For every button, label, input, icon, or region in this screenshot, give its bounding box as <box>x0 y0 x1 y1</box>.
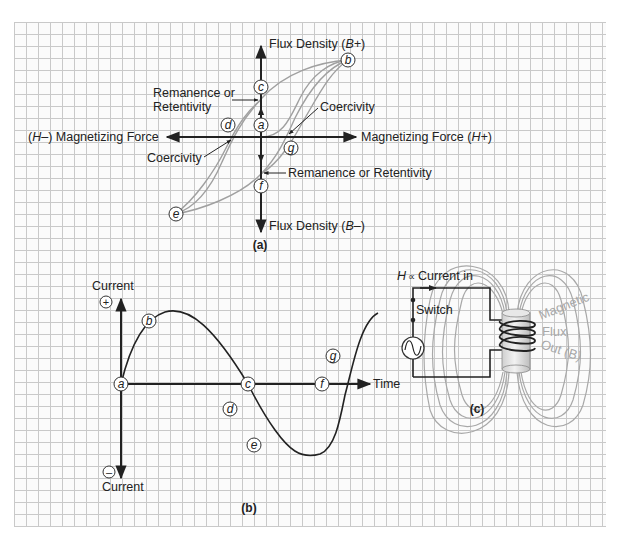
figure-canvas: Flux Density (B+) Flux Density (B–) (H–)… <box>0 0 621 541</box>
panel-b-caption: (b) <box>241 501 256 515</box>
current-positive-axis-label: Current <box>92 279 134 293</box>
minus-sign-icon: – <box>103 466 115 478</box>
svg-text:b: b <box>345 53 352 67</box>
flux-density-b-minus-label: Flux Density (B–) <box>269 219 365 233</box>
remanence-top-label-line2: Retentivity <box>153 100 212 114</box>
svg-text:b: b <box>146 314 153 328</box>
wave-point-d: d <box>223 402 237 416</box>
switch-contact-top <box>411 298 416 303</box>
flux-density-b-plus-label: Flux Density (B+) <box>269 37 365 51</box>
plus-sign-icon: + <box>100 296 112 308</box>
svg-text:e: e <box>251 438 258 452</box>
svg-text:d: d <box>227 402 234 416</box>
svg-text:d: d <box>225 118 232 132</box>
point-a: a <box>254 118 268 132</box>
svg-text:a: a <box>118 377 125 391</box>
coercivity-right-label: Coercivity <box>320 100 376 114</box>
svg-text:g: g <box>288 141 295 155</box>
panel-a-caption: (a) <box>253 238 268 252</box>
magnetizing-force-h-plus-label: Magnetizing Force (H+) <box>361 130 492 144</box>
svg-text:c: c <box>245 377 251 391</box>
panel-b-current-waveform: Current Current Time + – a b c d e f g (… <box>92 279 400 515</box>
svg-text:e: e <box>173 207 180 221</box>
remanence-bottom-label: Remanence or Retentivity <box>288 166 433 180</box>
panel-c-coil-circuit: Switch Magnetic Flux Out (B) H∝Current i… <box>397 266 591 433</box>
wave-point-e: e <box>247 438 261 452</box>
point-d: d <box>221 118 235 132</box>
magnetic-flux-label-line3: Out (B) <box>539 337 583 364</box>
time-axis-label: Time <box>373 377 400 391</box>
wave-point-c: c <box>241 377 255 391</box>
coercivity-left-pointer <box>204 140 231 157</box>
wave-point-g: g <box>326 349 340 363</box>
point-e: e <box>169 207 183 221</box>
switch-contact-bottom <box>411 318 416 323</box>
svg-text:+: + <box>103 296 109 308</box>
svg-text:g: g <box>330 349 337 363</box>
ac-source-sine-icon <box>402 337 424 359</box>
wave-point-b: b <box>142 314 156 328</box>
magnetic-flux-label-line1: Magnetic <box>537 289 592 323</box>
current-negative-axis-label: Current <box>102 480 144 494</box>
panel-c-caption: (c) <box>470 402 485 416</box>
svg-text:a: a <box>258 118 265 132</box>
svg-text:–: – <box>106 466 113 478</box>
h-proportional-current-in-label: H∝Current in <box>397 269 473 283</box>
coercivity-left-label: Coercivity <box>147 151 203 165</box>
magnetizing-force-h-minus-label: (H–) Magnetizing Force <box>28 130 159 144</box>
point-g: g <box>284 141 298 155</box>
switch-label: Switch <box>416 303 453 317</box>
wave-point-f: f <box>315 377 329 391</box>
point-f: f <box>254 179 268 193</box>
remanence-top-label-line1: Remanence or <box>153 86 235 100</box>
panel-a-hysteresis: Flux Density (B+) Flux Density (B–) (H–)… <box>28 37 492 252</box>
circuit-wires <box>413 288 502 377</box>
point-c: c <box>254 80 268 94</box>
svg-text:c: c <box>258 80 264 94</box>
point-b: b <box>341 53 355 67</box>
wave-point-a: a <box>114 377 128 391</box>
